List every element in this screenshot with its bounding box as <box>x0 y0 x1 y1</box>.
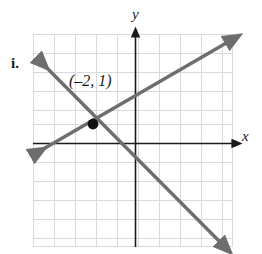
intersection-point-marker <box>88 119 99 130</box>
graph-figure: i. y x (–2, 1) <box>0 0 262 254</box>
y-axis-label: y <box>132 6 139 23</box>
intersection-point-label: (–2, 1) <box>69 72 112 90</box>
x-axis-label: x <box>242 128 249 145</box>
item-label: i. <box>11 55 19 72</box>
coordinate-plane-svg <box>0 0 262 254</box>
plot-background <box>33 34 233 247</box>
